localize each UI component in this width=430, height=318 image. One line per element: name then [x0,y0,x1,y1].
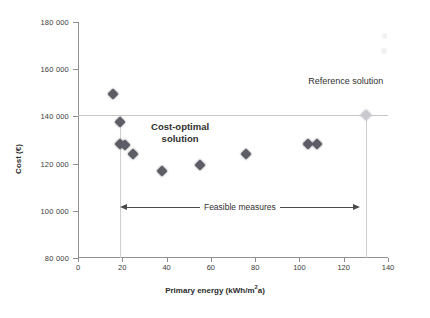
x-tick-label: 20 [118,263,126,272]
gridline-horizontal [78,115,388,116]
x-axis-line [78,257,388,258]
y-tick-label: 140 000 [40,112,69,121]
x-axis-title-tail: a) [258,286,265,295]
data-point-marker [241,148,252,159]
annotation-reference-solution: Reference solution [308,76,383,86]
annotation-cost-optimal-line2: solution [151,133,209,145]
data-point-marker [108,88,119,99]
annotation-cost-optimal-line1: Cost-optimal [151,121,209,133]
plot-area: 80 000100 000120 000140 000160 000180 00… [78,22,388,258]
x-tick-label: 80 [251,263,259,272]
x-tick-mark [211,258,212,262]
x-tick-label: 120 [337,263,350,272]
x-tick-mark [167,258,168,262]
arrow-head-right-icon [353,204,360,210]
x-axis-title: Primary energy (kWh/m2a) [0,284,430,295]
y-axis-line [78,22,79,258]
figure-caption [0,310,430,318]
x-tick-mark [255,258,256,262]
x-axis-title-text: Primary energy (kWh/m [165,286,254,295]
x-tick-label: 140 [382,263,395,272]
x-tick-mark [299,258,300,262]
annotation-feasible-measures-label: Feasible measures [200,202,280,212]
y-tick-label: 180 000 [40,18,69,27]
y-tick-mark [73,164,78,165]
data-point-marker [311,138,322,149]
x-tick-label: 40 [162,263,170,272]
x-tick-label: 100 [293,263,306,272]
y-tick-mark [73,116,78,117]
y-tick-mark [73,22,78,23]
arrow-segment-left [127,207,200,208]
x-tick-label: 60 [207,263,215,272]
x-tick-label: 0 [76,263,80,272]
x-tick-mark [388,258,389,262]
y-tick-label: 100 000 [40,206,69,215]
x-tick-mark [344,258,345,262]
data-point-marker [360,110,371,121]
x-tick-mark [78,258,79,262]
data-point-marker [194,159,205,170]
y-tick-mark [73,211,78,212]
chart-figure: Cost (€) Primary energy (kWh/m2a) 80 000… [0,0,430,318]
y-axis-title: Cost (€) [14,144,23,174]
data-point-marker [114,117,125,128]
arrow-segment-right [280,207,353,208]
gridline-vertical [366,115,367,258]
arrow-head-left-icon [120,204,127,210]
y-tick-label: 80 000 [45,254,69,263]
data-point-marker [128,148,139,159]
gridline-vertical [120,115,121,258]
y-tick-label: 120 000 [40,159,69,168]
y-tick-mark [73,69,78,70]
annotation-feasible-measures: Feasible measures [120,202,366,212]
x-tick-mark [122,258,123,262]
annotation-cost-optimal: Cost-optimal solution [151,121,209,145]
y-tick-label: 160 000 [40,65,69,74]
data-point-marker [156,165,167,176]
